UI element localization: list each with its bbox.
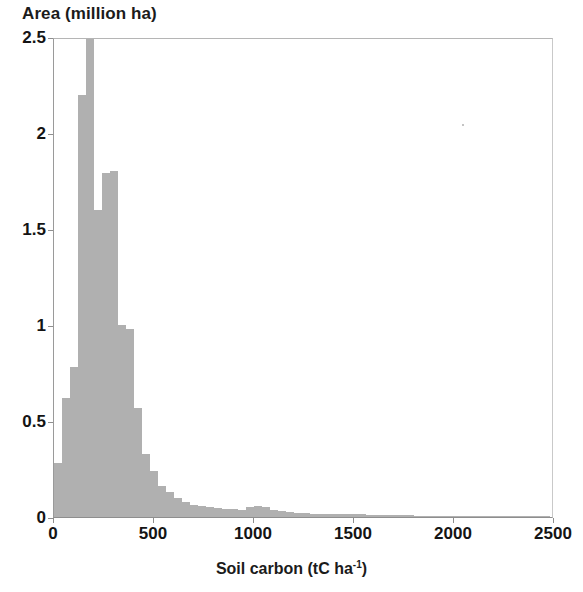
- y-axis-tick-label: 1: [0, 316, 46, 336]
- histogram-bar: [206, 507, 214, 517]
- x-axis-tick-label: 1500: [334, 524, 372, 544]
- histogram-bar: [334, 514, 342, 517]
- x-axis-title: Soil carbon (tC ha-1): [0, 560, 583, 578]
- x-axis-tick-mark: [53, 518, 54, 523]
- histogram-bar: [230, 509, 238, 517]
- histogram-bar: [262, 507, 270, 517]
- plot-area: [53, 38, 553, 518]
- histogram-bar: [214, 508, 222, 517]
- histogram-bar: [110, 171, 118, 517]
- y-axis-tick-label: 0.5: [0, 412, 46, 432]
- chart-figure: Area (million ha) 00.511.522.5 050010001…: [0, 0, 583, 592]
- histogram-bar: [246, 507, 254, 517]
- y-axis-title: Area (million ha): [22, 4, 157, 24]
- histogram-bar: [222, 509, 230, 517]
- histogram-bar: [326, 514, 334, 517]
- histogram-bar: [198, 506, 206, 517]
- scan-artifact-speck: [462, 124, 464, 126]
- histogram-bar: [238, 510, 246, 517]
- histogram-bar: [430, 516, 438, 517]
- histogram-bar: [94, 210, 102, 517]
- histogram-bar: [398, 515, 406, 517]
- histogram-bar: [182, 502, 190, 517]
- histogram-bar: [390, 515, 398, 517]
- histogram-bar: [54, 463, 62, 517]
- histogram-bar: [470, 516, 478, 517]
- histogram-bar: [502, 516, 510, 517]
- histogram-bar: [350, 514, 358, 517]
- histogram-bar: [190, 505, 198, 517]
- histogram-bar: [342, 514, 350, 517]
- histogram-bar: [406, 515, 414, 517]
- histogram-bar: [86, 38, 94, 517]
- histogram-bar: [286, 512, 294, 517]
- histogram-bar: [374, 515, 382, 517]
- histogram-bar: [142, 454, 150, 517]
- x-axis-tick-mark: [453, 518, 454, 523]
- histogram-bar: [166, 492, 174, 517]
- histogram-bar: [278, 511, 286, 517]
- histogram-bar: [174, 498, 182, 517]
- histogram-bar: [414, 516, 422, 517]
- histogram-bar: [446, 516, 454, 517]
- histogram-bar: [126, 329, 134, 517]
- x-axis-tick-label: 500: [139, 524, 167, 544]
- histogram-bar: [518, 516, 526, 517]
- histogram-bar: [366, 515, 374, 517]
- x-axis-tick-label: 2000: [434, 524, 472, 544]
- x-axis-tick-label: 0: [48, 524, 57, 544]
- x-axis-tick-mark: [353, 518, 354, 523]
- histogram-bar: [270, 510, 278, 517]
- histogram-bar: [118, 325, 126, 517]
- histogram-bar: [150, 471, 158, 517]
- histogram-bar: [494, 516, 502, 517]
- histogram-bar: [510, 516, 518, 517]
- histogram-bar: [382, 515, 390, 517]
- x-axis-tick-label: 1000: [234, 524, 272, 544]
- x-axis-tick-mark: [253, 518, 254, 523]
- histogram-bar: [294, 513, 302, 517]
- histogram-bar: [78, 95, 86, 517]
- y-axis-tick-label: 2: [0, 124, 46, 144]
- histogram-bar: [134, 408, 142, 517]
- histogram-bar: [526, 516, 534, 517]
- histogram-bar: [310, 514, 318, 517]
- y-axis-tick-label: 1.5: [0, 220, 46, 240]
- histogram-bar: [486, 516, 494, 517]
- histogram-bar: [62, 398, 70, 517]
- histogram-bar: [158, 486, 166, 517]
- histogram-bar: [422, 516, 430, 517]
- histogram-bar: [70, 367, 78, 517]
- histogram-bars: [54, 39, 552, 517]
- x-axis-title-superscript: -1: [353, 559, 362, 570]
- x-axis-title-tail: ): [362, 560, 367, 577]
- histogram-bar: [358, 514, 366, 517]
- histogram-bar: [438, 516, 446, 517]
- histogram-bar: [462, 516, 470, 517]
- histogram-bar: [542, 516, 550, 517]
- histogram-bar: [534, 516, 542, 517]
- histogram-bar: [254, 506, 262, 517]
- y-axis-tick-label: 2.5: [0, 28, 46, 48]
- x-axis-title-base: Soil carbon (tC ha: [216, 560, 353, 577]
- histogram-bar: [478, 516, 486, 517]
- histogram-bar: [318, 514, 326, 517]
- x-axis-tick-mark: [553, 518, 554, 523]
- x-axis-tick-label: 2500: [534, 524, 572, 544]
- histogram-bar: [102, 173, 110, 517]
- histogram-bar: [302, 513, 310, 517]
- y-axis-tick-label: 0: [0, 508, 46, 528]
- histogram-bar: [454, 516, 462, 517]
- x-axis-tick-mark: [153, 518, 154, 523]
